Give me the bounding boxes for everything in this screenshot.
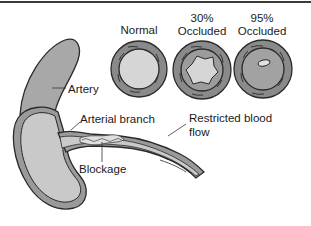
label-30-percent: 30% <box>172 12 232 24</box>
main-artery-lower <box>13 107 86 209</box>
label-95-occluded: Occluded <box>232 25 292 37</box>
label-arterial-branch: Arterial branch <box>80 113 155 125</box>
label-normal: Normal <box>114 24 164 36</box>
label-restricted-flow-2: flow <box>189 126 209 138</box>
cross-section-30-occluded <box>173 41 231 99</box>
main-artery-upper <box>20 39 79 115</box>
cross-section-normal <box>111 41 167 97</box>
label-95-percent: 95% <box>232 12 292 24</box>
label-restricted-flow-1: Restricted blood <box>189 112 272 124</box>
label-blockage: Blockage <box>79 163 126 175</box>
cross-section-95-occluded <box>234 40 292 98</box>
label-artery: Artery <box>68 83 99 95</box>
label-30-occluded: Occluded <box>172 25 232 37</box>
